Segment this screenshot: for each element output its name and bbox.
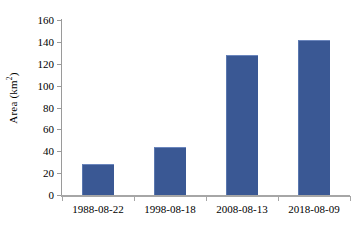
y-tick-mark [57, 64, 61, 65]
y-tick-mark [57, 108, 61, 109]
plot-area [62, 20, 350, 195]
y-tick-label: 100 [14, 80, 54, 92]
x-axis-label: 2008-08-13 [216, 203, 267, 215]
y-axis-title-superscript: 2 [5, 76, 14, 80]
y-tick-label: 40 [14, 145, 54, 157]
bar [82, 164, 114, 195]
y-tick-mark [57, 20, 61, 21]
x-tick-mark [278, 196, 279, 201]
x-axis-label: 1988-08-22 [72, 203, 123, 215]
y-tick-label: 20 [14, 167, 54, 179]
bar-chart: Area (km2) 020406080100120140160 1988-08… [0, 0, 364, 234]
x-axis-label: 1998-08-18 [144, 203, 195, 215]
bar [226, 55, 258, 195]
y-tick-label: 0 [14, 189, 54, 201]
x-tick-mark [350, 196, 351, 201]
y-tick-label: 120 [14, 58, 54, 70]
y-tick-mark [57, 42, 61, 43]
y-tick-label: 160 [14, 14, 54, 26]
y-tick-label: 60 [14, 123, 54, 135]
bar [298, 40, 330, 195]
y-tick-mark [57, 173, 61, 174]
x-tick-mark [62, 196, 63, 201]
bar [154, 147, 186, 195]
x-tick-mark [134, 196, 135, 201]
y-tick-label: 140 [14, 36, 54, 48]
x-tick-mark [206, 196, 207, 201]
x-axis-label: 2018-08-09 [288, 203, 339, 215]
y-tick-mark [57, 151, 61, 152]
y-tick-mark [57, 86, 61, 87]
y-tick-label: 80 [14, 102, 54, 114]
y-tick-mark [57, 129, 61, 130]
y-tick-mark [57, 195, 61, 196]
y-axis-title-tail: ) [7, 72, 19, 76]
